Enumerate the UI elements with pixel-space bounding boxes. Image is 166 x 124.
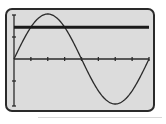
graph-plot <box>0 0 166 124</box>
